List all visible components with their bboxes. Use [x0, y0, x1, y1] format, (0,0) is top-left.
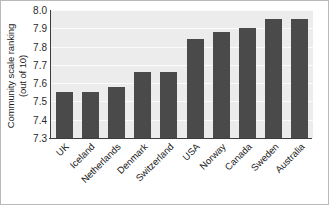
- y-axis-tick-label: 7.9: [33, 23, 47, 34]
- y-axis-tick-labels: 8.07.97.87.77.67.57.47.3: [23, 10, 49, 138]
- bar: [239, 28, 256, 138]
- x-axis-tick-slot: UK: [50, 139, 76, 199]
- x-axis-tick-labels: UKIcelandNetherlandsDenmarkSwitzerlandUS…: [50, 139, 312, 199]
- y-axis-tick-label: 7.4: [33, 114, 47, 125]
- bar: [82, 92, 99, 138]
- y-axis-title-line-1: Community scale ranking: [5, 24, 16, 128]
- x-axis-tick-label: USA: [180, 141, 202, 163]
- plot-area: [50, 10, 313, 138]
- y-axis-tick-label: 7.8: [33, 41, 47, 52]
- bar: [187, 39, 204, 138]
- x-axis-tick-slot: Switzerland: [155, 139, 181, 199]
- bar-chart-figure: Community scale ranking (out of 10) 8.07…: [0, 0, 329, 205]
- x-axis-tick-label: UK: [54, 141, 71, 158]
- bar: [291, 19, 308, 138]
- y-axis-tick-label: 7.5: [33, 96, 47, 107]
- y-axis-tick-label: 7.6: [33, 78, 47, 89]
- bar: [108, 87, 125, 138]
- y-axis-tick-label: 8.0: [33, 5, 47, 16]
- x-axis-tick-slot: Australia: [286, 139, 312, 199]
- y-axis-tick-label: 7.7: [33, 59, 47, 70]
- bar: [56, 92, 73, 138]
- y-axis-tick-label: 7.3: [33, 133, 47, 144]
- bar: [265, 19, 282, 138]
- bar: [213, 32, 230, 138]
- bar-series: [51, 10, 313, 138]
- bar: [134, 72, 151, 138]
- bar: [160, 72, 177, 138]
